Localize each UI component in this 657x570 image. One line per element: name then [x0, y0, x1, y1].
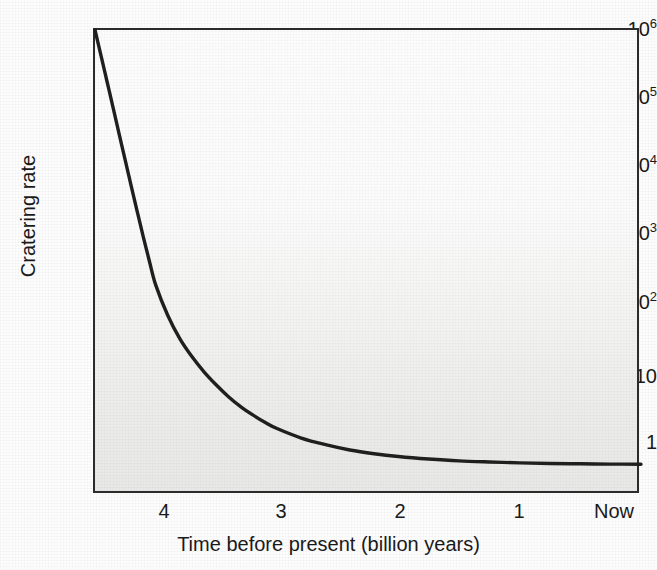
plot-area — [93, 28, 639, 493]
x-axis-title: Time before present (billion years) — [0, 533, 657, 555]
x-tick-label-1: 1 — [513, 500, 524, 522]
y-tick-exponent: 4 — [650, 152, 657, 167]
x-tick-label-now: Now — [594, 500, 634, 522]
x-tick-label-4: 4 — [158, 500, 169, 522]
y-tick-exponent: 5 — [650, 84, 657, 99]
cratering-rate-curve — [95, 30, 641, 464]
y-tick-exponent: 6 — [650, 16, 657, 31]
x-tick-label-2: 2 — [394, 500, 405, 522]
y-axis-title: Cratering rate — [17, 106, 39, 326]
y-tick-exponent: 3 — [650, 220, 657, 235]
figure-container: 106 105 104 103 102 10 1 4 3 2 1 Now Cra… — [0, 0, 657, 570]
y-tick-mantissa: 1 — [646, 431, 657, 453]
y-tick-exponent: 2 — [650, 289, 657, 304]
cratering-rate-curve-svg — [95, 30, 641, 495]
x-tick-label-3: 3 — [275, 500, 286, 522]
